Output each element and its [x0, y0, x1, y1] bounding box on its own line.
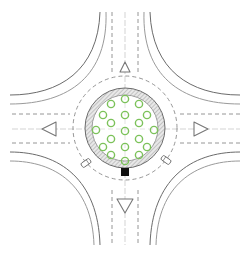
road-edge-se-outer [150, 152, 240, 245]
splitter-island-south [117, 199, 133, 213]
monument-block [121, 168, 129, 176]
road-edge-nw-outer [10, 12, 100, 95]
road-edge-ne-outer [150, 12, 240, 95]
splitter-island-north [120, 62, 130, 72]
roundabout-diagram [0, 0, 250, 257]
road-edge-nw-inner [10, 12, 106, 104]
splitter-island-west [42, 122, 56, 136]
roundabout-plan-svg [0, 0, 250, 257]
road-edge-ne-inner [144, 12, 240, 104]
car-icon [160, 155, 171, 165]
road-edge-sw-inner [10, 161, 94, 245]
splitter-island-east [194, 122, 208, 136]
road-edge-se-inner [156, 161, 240, 245]
